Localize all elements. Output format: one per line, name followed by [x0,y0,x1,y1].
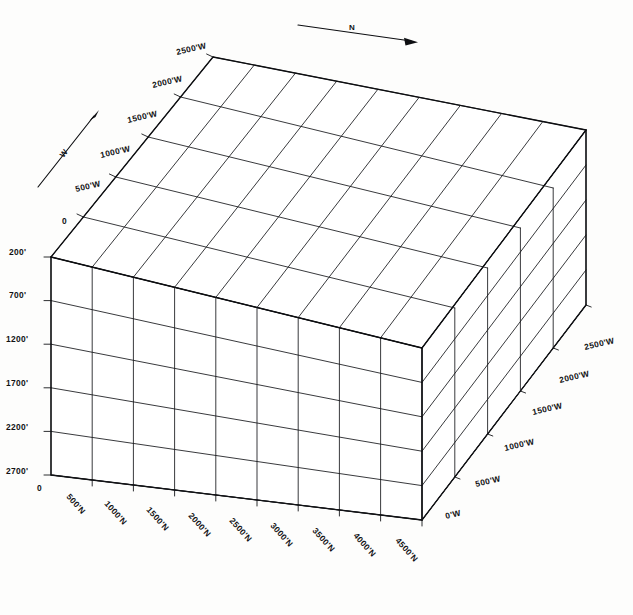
elevation-labels: 200' 700' 1200' 1700' 2200' 2700' 0 [6,247,42,493]
west-label: 2000'W [151,73,183,90]
west-right-label: 500'W [474,473,501,489]
west-label: 500'W [74,178,101,194]
west-right-label: 2000'W [558,368,590,385]
north-label: 3000'N [269,521,296,549]
west-right-label: 1000'W [503,436,535,453]
elevation-label: 1200' [6,334,28,344]
north-label: 3500'N [311,526,338,554]
north-label: 1500'N [145,505,172,533]
elevation-label: 700' [9,290,26,300]
north-label: 4000'N [352,531,379,559]
figure-root: N W 200' 700' 1200' 1700' 2200' 2700' 0 … [0,0,633,615]
elevation-label: 2200' [6,422,28,432]
north-label: 2000'N [187,511,214,539]
west-label: 1000'W [99,143,131,160]
west-label: 1500'W [126,108,158,125]
north-label: 2500'N [228,516,255,544]
west-compass: W [38,110,99,187]
elevation-label: 200' [9,247,26,257]
origin-label-bottom-left: 0 [37,483,42,493]
west-right-label: 0'W [444,508,461,521]
origin-label-west: 0 [62,216,67,226]
north-label: 500'N [65,492,88,516]
arrow-up-right-icon [90,110,100,121]
elevation-label: 2700' [6,466,28,476]
arrow-right-icon [404,38,418,46]
north-label: 4500'N [394,536,421,564]
elevation-label: 1700' [6,378,28,388]
west-right-label: 2500'W [583,335,615,352]
elevation-ticks [44,257,51,475]
north-compass-label: N [349,23,355,32]
north-label: 1000'N [103,499,130,527]
west-label: 2500'W [175,40,207,57]
north-compass: N [298,23,418,45]
block-diagram: N W 200' 700' 1200' 1700' 2200' 2700' 0 … [0,0,633,615]
west-right-label: 1500'W [531,400,563,417]
